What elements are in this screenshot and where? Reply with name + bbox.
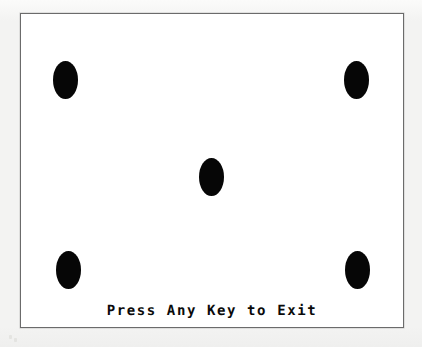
program-panel[interactable]: Press Any Key to Exit (20, 13, 404, 328)
press-any-key-prompt: Press Any Key to Exit (21, 303, 403, 320)
dot-center (199, 158, 224, 196)
scan-speckle (9, 335, 12, 339)
dot-bottom-left (56, 251, 81, 289)
screenshot-root: Press Any Key to Exit (0, 0, 422, 347)
dot-top-right (344, 61, 369, 99)
dot-top-left (53, 61, 78, 99)
scan-speckle (14, 338, 17, 342)
dot-bottom-right (345, 251, 370, 289)
panel-content-area (21, 14, 403, 327)
